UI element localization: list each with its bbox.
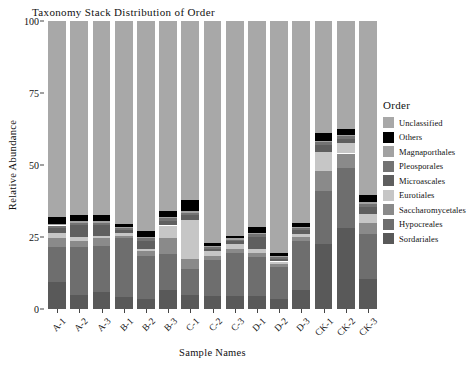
bar-segment[interactable]: [248, 227, 266, 233]
bar-segment[interactable]: [93, 225, 111, 235]
bar-segment[interactable]: [226, 21, 244, 236]
bar-segment[interactable]: [93, 223, 111, 226]
bar-segment[interactable]: [248, 234, 266, 237]
bar-column[interactable]: [93, 21, 111, 309]
bar-column[interactable]: [159, 21, 177, 309]
bar-segment[interactable]: [226, 249, 244, 253]
bar-segment[interactable]: [115, 233, 133, 236]
bar-column[interactable]: [181, 21, 199, 309]
bar-column[interactable]: [359, 21, 377, 309]
bar-segment[interactable]: [248, 257, 266, 296]
bar-segment[interactable]: [292, 227, 310, 228]
bar-column[interactable]: [337, 21, 355, 309]
bar-segment[interactable]: [315, 145, 333, 152]
legend-item[interactable]: Eurotiales: [383, 189, 476, 202]
bar-segment[interactable]: [226, 244, 244, 248]
bar-column[interactable]: [70, 21, 88, 309]
bar-segment[interactable]: [93, 215, 111, 221]
bar-segment[interactable]: [337, 228, 355, 309]
legend-item[interactable]: Pleosporales: [383, 160, 476, 173]
bar-segment[interactable]: [181, 295, 199, 309]
bar-column[interactable]: [48, 21, 66, 309]
bar-segment[interactable]: [248, 296, 266, 309]
bar-segment[interactable]: [359, 207, 377, 214]
bar-segment[interactable]: [181, 215, 199, 219]
bar-segment[interactable]: [48, 228, 66, 232]
bar-segment[interactable]: [204, 21, 222, 243]
bar-segment[interactable]: [292, 234, 310, 237]
bar-segment[interactable]: [226, 253, 244, 296]
bar-segment[interactable]: [270, 256, 288, 257]
bar-segment[interactable]: [159, 238, 177, 254]
bar-segment[interactable]: [93, 236, 111, 239]
bar-segment[interactable]: [93, 21, 111, 215]
bar-segment[interactable]: [181, 259, 199, 269]
bar-segment[interactable]: [137, 21, 155, 231]
bar-segment[interactable]: [248, 233, 266, 234]
bar-segment[interactable]: [48, 282, 66, 309]
bar-segment[interactable]: [337, 135, 355, 136]
bar-segment[interactable]: [137, 237, 155, 238]
bar-segment[interactable]: [70, 223, 88, 226]
bar-column[interactable]: [115, 21, 133, 309]
bar-segment[interactable]: [292, 241, 310, 290]
bar-segment[interactable]: [159, 21, 177, 211]
bar-segment[interactable]: [48, 233, 66, 239]
bar-segment[interactable]: [204, 251, 222, 255]
bar-segment[interactable]: [337, 21, 355, 129]
bar-segment[interactable]: [115, 297, 133, 309]
bar-segment[interactable]: [137, 231, 155, 237]
bar-segment[interactable]: [48, 238, 66, 247]
bar-segment[interactable]: [248, 21, 266, 227]
bar-segment[interactable]: [315, 133, 333, 140]
legend-item[interactable]: Hypocreales: [383, 218, 476, 231]
bar-segment[interactable]: [159, 254, 177, 290]
bar-segment[interactable]: [70, 247, 88, 295]
bar-segment[interactable]: [204, 247, 222, 248]
bar-segment[interactable]: [337, 143, 355, 153]
bar-segment[interactable]: [204, 296, 222, 309]
bar-segment[interactable]: [270, 267, 288, 299]
bar-segment[interactable]: [204, 243, 222, 246]
bar-segment[interactable]: [48, 247, 66, 282]
bar-segment[interactable]: [137, 241, 155, 248]
bar-segment[interactable]: [93, 292, 111, 309]
bar-segment[interactable]: [315, 141, 333, 142]
bar-segment[interactable]: [359, 234, 377, 279]
bar-segment[interactable]: [115, 236, 133, 239]
legend-item[interactable]: Sordariales: [383, 232, 476, 245]
bar-column[interactable]: [226, 21, 244, 309]
bar-segment[interactable]: [93, 221, 111, 222]
legend-item[interactable]: Microascales: [383, 174, 476, 187]
bar-column[interactable]: [270, 21, 288, 309]
bar-segment[interactable]: [337, 154, 355, 168]
bar-segment[interactable]: [315, 244, 333, 309]
bar-segment[interactable]: [270, 299, 288, 309]
bar-segment[interactable]: [248, 237, 266, 249]
bar-segment[interactable]: [292, 230, 310, 234]
bar-segment[interactable]: [181, 200, 199, 212]
bar-segment[interactable]: [93, 246, 111, 292]
bar-segment[interactable]: [70, 295, 88, 309]
bar-segment[interactable]: [337, 168, 355, 228]
bar-segment[interactable]: [315, 191, 333, 244]
bar-segment[interactable]: [359, 223, 377, 235]
bar-segment[interactable]: [359, 214, 377, 223]
bar-segment[interactable]: [48, 226, 66, 229]
bar-segment[interactable]: [137, 251, 155, 255]
bar-column[interactable]: [292, 21, 310, 309]
bar-segment[interactable]: [137, 299, 155, 309]
legend-item[interactable]: Others: [383, 131, 476, 144]
bar-segment[interactable]: [270, 253, 288, 256]
bar-segment[interactable]: [159, 221, 177, 225]
bar-column[interactable]: [137, 21, 155, 309]
bar-segment[interactable]: [181, 211, 199, 212]
legend-item[interactable]: Unclassified: [383, 116, 476, 129]
bar-column[interactable]: [248, 21, 266, 309]
bar-segment[interactable]: [292, 21, 310, 223]
bar-segment[interactable]: [70, 221, 88, 222]
bar-segment[interactable]: [226, 296, 244, 309]
bar-segment[interactable]: [359, 204, 377, 207]
bar-segment[interactable]: [226, 238, 244, 239]
bar-segment[interactable]: [226, 241, 244, 244]
